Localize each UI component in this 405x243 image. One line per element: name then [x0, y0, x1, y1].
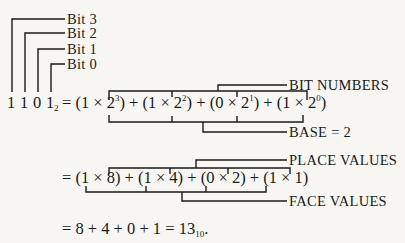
binary-digit-3: 1 — [7, 95, 15, 112]
expansion-place-values: = (1 × 8) + (1 × 4) + (0 × 2) + (1 × 1) — [62, 170, 308, 187]
binary-digit-1: 0 — [33, 95, 41, 112]
expansion-powers: = (1 × 23) + (1 × 22) + (0 × 21) + (1 × … — [62, 95, 326, 112]
bit-0-label: Bit 0 — [67, 57, 97, 72]
decimal-result: = 8 + 4 + 0 + 1 = 1310. — [62, 221, 208, 238]
base-label: BASE = 2 — [289, 125, 351, 140]
binary-subscript: 2 — [54, 104, 59, 113]
place-values-label: PLACE VALUES — [289, 153, 397, 168]
bit-numbers-label: BIT NUMBERS — [289, 78, 389, 93]
bit-1-label: Bit 1 — [67, 42, 97, 57]
binary-digit-0: 1 — [46, 95, 54, 112]
bit-2-label: Bit 2 — [67, 26, 97, 41]
binary-digit-2: 1 — [20, 95, 28, 112]
face-values-label: FACE VALUES — [289, 194, 387, 209]
